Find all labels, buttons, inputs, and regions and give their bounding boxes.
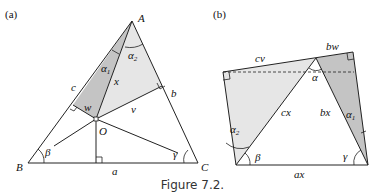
panel-a: (a) A B C O a b c x v w α1 α2 (5, 8, 209, 177)
angle-alpha-label: α (312, 71, 318, 83)
figure-caption: Figure 7.2. (0, 178, 385, 192)
figure-canvas: (a) A B C O a b c x v w α1 α2 (0, 0, 385, 196)
angle-beta-label: β (254, 151, 261, 163)
panel-b-tag: (b) (213, 8, 226, 21)
vertex-c-label: C (201, 161, 209, 173)
segment-x-label: x (113, 75, 119, 87)
side-cv-label: cv (255, 52, 265, 64)
bisector-b (54, 119, 96, 146)
light-shaded-triangle (223, 58, 316, 165)
point-o-label: O (99, 125, 107, 137)
angle-arc-beta (245, 153, 250, 165)
right-angle-bc (96, 157, 102, 163)
angle-arc-beta (38, 149, 44, 163)
angle-gamma-label: γ (173, 148, 178, 160)
segment-w-label: w (84, 101, 92, 113)
side-c-label: c (71, 81, 76, 93)
angle-gamma-label: γ (343, 150, 348, 162)
angle-beta-label: β (44, 146, 51, 158)
bisector-c (96, 119, 178, 153)
vertex-b-label: B (16, 161, 23, 173)
side-a-label: a (112, 165, 118, 177)
point-o (94, 117, 98, 121)
side-cx-label: cx (281, 106, 291, 118)
side-b-label: b (171, 87, 177, 99)
panel-b: (b) cv bw cx bx ax α α1 α2 β γ (213, 8, 368, 180)
angle-arc-gamma (354, 150, 361, 165)
vertex-a-label: A (137, 12, 145, 24)
segment-v-label: v (131, 103, 136, 115)
side-bw-label: bw (326, 40, 340, 52)
side-bx-label: bx (320, 106, 331, 118)
right-angle-ab (70, 107, 77, 111)
angle-arc-gamma (184, 150, 188, 163)
panel-a-tag: (a) (5, 8, 18, 21)
